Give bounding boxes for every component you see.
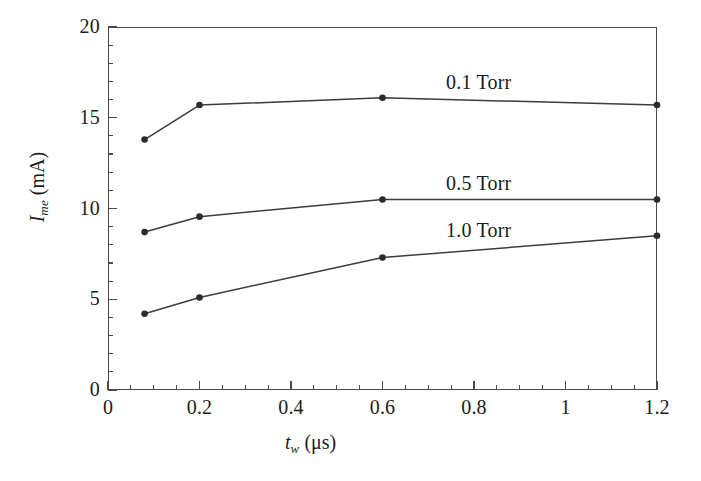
x-tick-minor	[405, 385, 406, 390]
x-tick-minor	[359, 385, 360, 390]
y-tick-minor	[108, 317, 113, 318]
y-tick-minor	[108, 262, 113, 263]
y-tick-minor	[108, 172, 113, 173]
y-axis-title-unit: (mA)	[26, 152, 48, 195]
x-tick-major	[107, 381, 108, 390]
y-tick-major	[108, 208, 117, 209]
x-tick-major	[199, 381, 200, 390]
y-tick-label-2: 10	[56, 198, 100, 218]
y-axis-title-variable: I	[26, 216, 48, 223]
y-tick-minor	[108, 135, 113, 136]
x-tick-minor	[336, 385, 337, 390]
y-tick-minor	[108, 63, 113, 64]
x-tick-minor	[519, 385, 520, 390]
y-tick-minor	[108, 81, 113, 82]
y-tick-minor	[108, 99, 113, 100]
x-tick-major	[565, 381, 566, 390]
x-tick-label-5: 1	[531, 396, 601, 418]
y-tick-major	[108, 299, 117, 300]
x-tick-minor	[451, 385, 452, 390]
y-tick-major	[108, 389, 117, 390]
y-tick-minor	[108, 371, 113, 372]
y-axis-title: Ime (mA)	[26, 112, 52, 262]
plot-frame	[108, 27, 657, 390]
x-tick-minor	[496, 385, 497, 390]
y-tick-label-4: 20	[56, 16, 100, 36]
x-axis-title: tw (μs)	[285, 431, 336, 457]
y-tick-minor	[108, 153, 113, 154]
x-axis-title-unit: (μs)	[304, 431, 336, 453]
x-tick-label-2: 0.4	[256, 396, 326, 418]
x-tick-minor	[130, 385, 131, 390]
x-tick-minor	[611, 385, 612, 390]
y-tick-label-3: 15	[56, 107, 100, 127]
x-tick-minor	[634, 385, 635, 390]
x-tick-major	[473, 381, 474, 390]
series-annotation-2: 1.0 Torr	[446, 219, 511, 242]
series-annotation-1: 0.5 Torr	[446, 172, 511, 195]
x-tick-major	[382, 381, 383, 390]
y-tick-major	[108, 117, 117, 118]
x-tick-label-1: 0.2	[165, 396, 235, 418]
x-tick-minor	[222, 385, 223, 390]
chart-figure: 05101520 00.20.40.60.811.2 Ime (mA) tw (…	[0, 0, 701, 481]
x-tick-major	[656, 381, 657, 390]
y-tick-minor	[108, 353, 113, 354]
x-tick-minor	[542, 385, 543, 390]
x-tick-minor	[588, 385, 589, 390]
x-tick-label-0: 0	[73, 396, 143, 418]
y-tick-minor	[108, 190, 113, 191]
x-tick-minor	[245, 385, 246, 390]
x-tick-minor	[153, 385, 154, 390]
x-tick-major	[290, 381, 291, 390]
x-tick-minor	[176, 385, 177, 390]
y-tick-major	[108, 26, 117, 27]
x-tick-label-3: 0.6	[348, 396, 418, 418]
y-tick-minor	[108, 244, 113, 245]
x-tick-label-4: 0.8	[439, 396, 509, 418]
y-axis-title-subscript: me	[36, 200, 51, 216]
x-tick-minor	[313, 385, 314, 390]
x-tick-minor	[428, 385, 429, 390]
x-tick-minor	[268, 385, 269, 390]
y-tick-minor	[108, 45, 113, 46]
y-tick-minor	[108, 281, 113, 282]
y-tick-label-1: 5	[56, 288, 100, 308]
series-annotation-0: 0.1 Torr	[446, 71, 511, 94]
y-tick-minor	[108, 335, 113, 336]
y-tick-minor	[108, 226, 113, 227]
x-tick-label-6: 1.2	[622, 396, 692, 418]
